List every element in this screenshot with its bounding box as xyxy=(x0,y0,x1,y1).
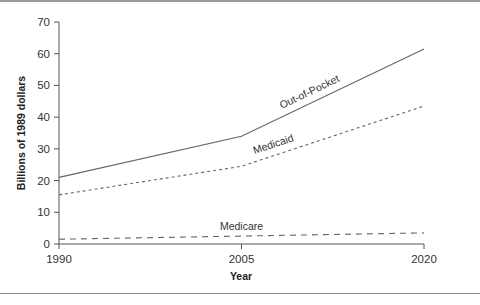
y-tick-label: 20 xyxy=(37,175,50,187)
y-tick-label: 50 xyxy=(37,79,50,91)
y-axis-title: Billions of 1989 dollars xyxy=(15,76,27,191)
x-axis-title: Year xyxy=(230,270,252,282)
line-chart: 010203040506070199020052020 Out-of-Pocke… xyxy=(0,0,480,305)
bottom-rule xyxy=(0,293,480,294)
labels-group: Out-of-PocketMedicaidMedicare xyxy=(220,72,341,232)
y-tick-label: 30 xyxy=(37,143,50,155)
series-group xyxy=(59,49,424,239)
x-tick-label: 2020 xyxy=(411,253,437,265)
series-line-out-of-pocket xyxy=(59,49,424,177)
series-label-medicare: Medicare xyxy=(220,220,263,232)
y-tick-label: 40 xyxy=(37,111,50,123)
series-line-medicare xyxy=(59,233,424,239)
y-tick-label: 10 xyxy=(37,206,50,218)
x-tick-label: 1990 xyxy=(46,253,72,265)
y-tick-label: 60 xyxy=(37,48,50,60)
x-tick-label: 2005 xyxy=(229,253,255,265)
y-tick-label: 70 xyxy=(37,16,50,28)
series-line-medicaid xyxy=(59,106,424,195)
series-label-medicaid: Medicaid xyxy=(251,131,295,156)
series-label-out-of-pocket: Out-of-Pocket xyxy=(277,72,341,111)
y-tick-label: 0 xyxy=(44,238,50,250)
